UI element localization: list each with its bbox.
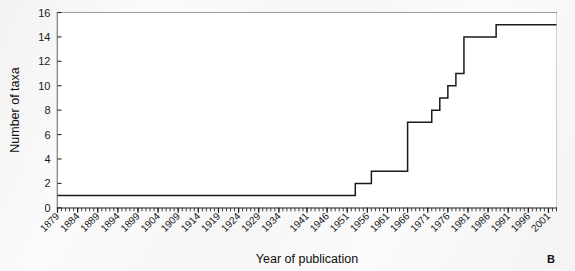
y-tick-label-8: 8 [44, 104, 50, 116]
x-tick-label-1951: 1951 [328, 210, 352, 234]
cumulative-taxa-step-chart: 0246810121416 18791884188918941899190419… [0, 0, 575, 271]
x-tick-label-1981: 1981 [448, 210, 472, 234]
x-tick-label-1996: 1996 [509, 210, 533, 234]
x-tick-label-1919: 1919 [199, 210, 223, 234]
x-tick-label-1879: 1879 [38, 210, 62, 234]
y-tick-label-10: 10 [38, 80, 50, 92]
figure-panel-b: 0246810121416 18791884188918941899190419… [0, 0, 575, 271]
y-tick-label-12: 12 [38, 55, 50, 67]
x-tick-label-1929: 1929 [239, 210, 263, 234]
x-tick-label-1976: 1976 [428, 210, 452, 234]
x-tick-label-2001: 2001 [529, 210, 553, 234]
y-tick-label-2: 2 [44, 177, 50, 189]
x-tick-label-1884: 1884 [58, 210, 82, 234]
y-tick-label-6: 6 [44, 129, 50, 141]
x-tick-label-1909: 1909 [159, 210, 183, 234]
y-tick-label-16: 16 [38, 7, 50, 19]
x-tick-label-1924: 1924 [219, 210, 243, 234]
x-axis-title: Year of publication [256, 252, 358, 266]
x-tick-label-1941: 1941 [287, 210, 311, 234]
x-tick-label-1986: 1986 [468, 210, 492, 234]
x-tick-label-1899: 1899 [118, 210, 142, 234]
plot-frame [57, 12, 557, 209]
y-tick-label-0: 0 [44, 202, 50, 214]
x-tick-label-1971: 1971 [408, 210, 432, 234]
x-tick-label-1914: 1914 [179, 210, 203, 234]
y-tick-label-14: 14 [38, 31, 50, 43]
x-tick-label-1946: 1946 [308, 210, 332, 234]
y-tick-label-4: 4 [44, 153, 50, 165]
x-tick-label-1904: 1904 [139, 210, 163, 234]
x-tick-label-1956: 1956 [348, 210, 372, 234]
x-tick-label-1966: 1966 [388, 210, 412, 234]
x-tick-label-1961: 1961 [368, 210, 392, 234]
x-tick-label-1991: 1991 [489, 210, 513, 234]
y-axis-title: Number of taxa [8, 67, 22, 153]
x-tick-label-1934: 1934 [259, 210, 283, 234]
x-tick-label-1889: 1889 [78, 210, 102, 234]
x-tick-label-1894: 1894 [98, 210, 122, 234]
panel-letter-b: B [547, 253, 555, 265]
x-axis: 1879188418891894189919041909191419191924… [38, 208, 553, 234]
